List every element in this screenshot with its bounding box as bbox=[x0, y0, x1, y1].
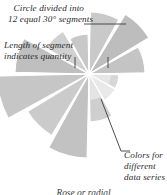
annotation-length: Length of segment indicates quantity bbox=[4, 40, 88, 62]
annotation-colors-line3: data series bbox=[124, 172, 167, 183]
annotation-colors-line1: Colors for bbox=[124, 150, 167, 161]
annotation-segments: Circle divided into 12 equal 30° segment… bbox=[8, 3, 84, 25]
annotation-colors-line2: different bbox=[124, 161, 167, 172]
annotation-length-line2: indicates quantity bbox=[4, 51, 88, 62]
rose-chart-diagram: Circle divided into 12 equal 30° segment… bbox=[0, 0, 167, 195]
annotation-length-line1: Length of segment bbox=[4, 40, 88, 51]
rose-hub bbox=[87, 72, 91, 76]
annotation-colors: Colors for different data series bbox=[124, 150, 167, 184]
annotation-segments-line2: 12 equal 30° segments bbox=[8, 14, 84, 25]
figure-caption: Rose or radial bbox=[0, 188, 167, 195]
annotation-segments-line1: Circle divided into bbox=[8, 3, 84, 14]
